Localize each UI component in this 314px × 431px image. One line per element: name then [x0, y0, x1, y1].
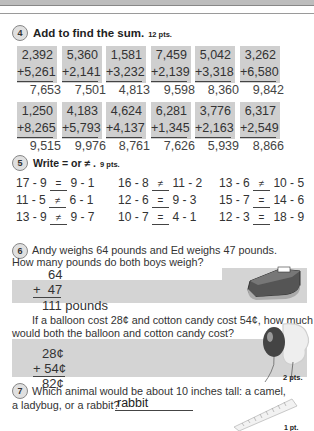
addend-bottom: +2,141	[62, 64, 98, 82]
compare-item: 13 - 6 ≠ 10 - 5	[219, 176, 304, 191]
sum-answer: 8,866	[240, 139, 284, 154]
problem-box: 3,262+6,580	[240, 46, 280, 83]
compare-item: 10 - 7 = 4 - 1	[118, 210, 196, 225]
addend-bottom: +8,265	[17, 120, 53, 138]
addend-bottom: +2,549	[240, 120, 276, 138]
addend-top: 2,392	[17, 47, 53, 64]
problem-box: 2,392+5,261	[17, 46, 57, 83]
question-7-line-2: a ladybug, or a rabbit?	[12, 399, 119, 411]
problem-box: 4,183+5,793	[62, 102, 102, 139]
compare-sign-field[interactable]: ≠	[50, 212, 67, 225]
addend-bottom: +1,345	[151, 120, 187, 138]
sum-answer: 9,598	[151, 83, 195, 98]
compare-item: 15 - 7 = 14 - 6	[219, 193, 304, 208]
sum-answer: 7,501	[62, 83, 106, 98]
addend-top: 4,624	[106, 103, 142, 120]
addition-problem: 5,042+3,3188,360	[195, 46, 240, 98]
compare-sign-field[interactable]: =	[253, 195, 270, 208]
addition-problem: 4,624+4,1378,761	[106, 102, 151, 154]
problem-box: 5,042+3,318	[195, 46, 235, 83]
compare-sign-field[interactable]: =	[152, 195, 169, 208]
sum-answer: 7,626	[151, 139, 195, 154]
addend-bottom: +3,232	[106, 64, 142, 82]
section-5-badge: 5	[12, 155, 28, 171]
problem-box: 6,317+2,549	[240, 102, 280, 139]
compare-item: 12 - 6 = 9 - 3	[118, 193, 196, 208]
top-border-line	[0, 5, 314, 6]
problem-box: 4,624+4,137	[106, 102, 146, 139]
compare-item: 16 - 8 ≠ 11 - 2	[118, 176, 202, 191]
compare-left: 13 - 9	[16, 210, 47, 224]
compare-right: 6 - 1	[69, 193, 93, 207]
compare-item: 11 - 5 ≠ 6 - 1	[16, 193, 94, 208]
compare-sign-field[interactable]: ≠	[253, 178, 270, 191]
compare-right: 9 - 7	[70, 210, 94, 224]
compare-sign-field[interactable]: =	[152, 212, 169, 225]
question-6a-line-1: Andy weighs 64 pounds and Ed weighs 47 p…	[32, 244, 277, 256]
compare-left: 15 - 7	[219, 193, 250, 207]
compare-sign-field[interactable]: =	[253, 212, 270, 225]
compare-right: 9 - 3	[172, 193, 196, 207]
addend-bottom: +3,318	[195, 64, 231, 82]
addition-problem: 6,281+1,3457,626	[151, 102, 196, 154]
work-6a-answer: 111 pounds	[42, 298, 108, 313]
section-4-heading: Add to find the sum.12 pts.	[33, 27, 172, 39]
problem-box: 3,776+2,163	[195, 102, 235, 139]
compare-left: 17 - 9	[16, 176, 47, 190]
addition-problem: 7,459+2,1399,598	[151, 46, 196, 98]
section-7-badge: 7	[12, 383, 28, 399]
work-6a-top: 64	[48, 267, 62, 282]
sum-answer: 7,653	[17, 83, 61, 98]
compare-right: 9 - 1	[70, 176, 94, 190]
compare-left: 10 - 7	[118, 210, 149, 224]
compare-sign-field[interactable]: ≠	[152, 178, 169, 191]
work-6a-bottom: + 47	[33, 282, 61, 298]
addend-top: 3,776	[195, 103, 231, 120]
section-7-points: 1 pt.	[284, 424, 298, 431]
sum-answer: 8,761	[106, 139, 150, 154]
answer-7-field[interactable]: rabbit	[115, 396, 193, 411]
divider	[0, 13, 314, 14]
addend-top: 6,281	[151, 103, 187, 120]
addend-top: 1,250	[17, 103, 53, 120]
section-5-heading: Write = or ≠ .9 pts.	[33, 157, 120, 169]
addend-bottom: +5,261	[17, 64, 53, 82]
section-4-points: 12 pts.	[148, 30, 172, 39]
addend-top: 1,581	[106, 47, 142, 64]
addend-bottom: +5,793	[62, 120, 98, 138]
compare-right: 4 - 1	[172, 210, 196, 224]
problem-box: 7,459+2,139	[151, 46, 191, 83]
section-4-title: Add to find the sum.	[33, 27, 144, 39]
question-6b-line-2: would both the balloon and cotton candy …	[12, 327, 234, 339]
problem-box: 5,360+2,141	[62, 46, 102, 83]
problem-box: 1,250+8,265	[17, 102, 57, 139]
sum-answer: 8,360	[195, 83, 239, 98]
compare-sign-field[interactable]: =	[50, 178, 67, 191]
compare-sign-field[interactable]: ≠	[49, 195, 66, 208]
addend-top: 5,042	[195, 47, 231, 64]
cutout	[12, 268, 222, 280]
addend-bottom: +6,580	[240, 64, 276, 82]
addition-problem: 3,776+2,1635,939	[195, 102, 240, 154]
compare-left: 12 - 6	[118, 193, 149, 207]
section-4-badge: 4	[12, 25, 28, 41]
addition-problem: 2,392+5,2617,653	[17, 46, 62, 98]
compare-left: 13 - 6	[219, 176, 250, 190]
addition-problem: 6,317+2,5498,866	[240, 102, 285, 154]
compare-item: 17 - 9 = 9 - 1	[16, 176, 94, 191]
section-5-points: 9 pts.	[100, 160, 120, 169]
compare-right: 10 - 5	[273, 176, 304, 190]
section-6-points: 2 pts.	[283, 373, 303, 382]
compare-right: 11 - 2	[172, 176, 202, 190]
addend-bottom: +2,139	[151, 64, 187, 82]
addend-top: 6,317	[240, 103, 276, 120]
addend-bottom: +4,137	[106, 120, 142, 138]
addend-bottom: +2,163	[195, 120, 231, 138]
compare-item: 13 - 9 ≠ 9 - 7	[16, 210, 94, 225]
compare-left: 12 - 3	[219, 210, 250, 224]
addition-problem: 5,360+2,1417,501	[62, 46, 107, 98]
problem-box: 6,281+1,345	[151, 102, 191, 139]
compare-left: 16 - 8	[118, 176, 149, 190]
sum-answer: 9,842	[240, 83, 284, 98]
compare-item: 12 - 3 = 18 - 9	[219, 210, 304, 225]
